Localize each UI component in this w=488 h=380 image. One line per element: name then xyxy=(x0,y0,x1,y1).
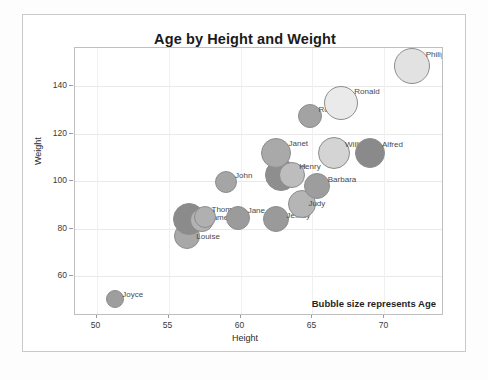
screenshot-root: Age by Height and Weight Weight Height 6… xyxy=(0,0,488,380)
data-point-label: Henry xyxy=(299,162,320,171)
x-tick-label: 65 xyxy=(296,321,326,330)
gridline-horizontal xyxy=(75,134,442,135)
plot-area: JoyceLouiseAliceJamesThomasJaneJohnJeffr… xyxy=(74,47,443,315)
data-point-bubble[interactable] xyxy=(226,206,250,230)
data-point-label: Ronald xyxy=(354,87,379,96)
data-point-label: Judy xyxy=(308,199,325,208)
data-point-bubble[interactable] xyxy=(394,48,430,84)
y-tick-label: 100 xyxy=(41,176,67,185)
gridline-horizontal xyxy=(75,229,442,230)
y-tick-mark xyxy=(69,228,73,229)
x-tick-label: 70 xyxy=(368,321,398,330)
y-tick-label: 140 xyxy=(41,81,67,90)
gridline-horizontal xyxy=(75,276,442,277)
gridline-vertical xyxy=(169,48,170,314)
data-point-label: Louise xyxy=(196,232,220,241)
y-tick-label: 120 xyxy=(41,129,67,138)
chart-card: Age by Height and Weight Weight Height 6… xyxy=(22,14,466,352)
bubble-size-annotation: Bubble size represents Age xyxy=(312,298,436,309)
data-point-bubble[interactable] xyxy=(324,86,358,120)
x-tick-label: 50 xyxy=(81,321,111,330)
data-point-bubble[interactable] xyxy=(355,138,385,168)
gridline-vertical xyxy=(97,48,98,314)
y-axis-label: Weight xyxy=(33,137,43,165)
data-point-bubble[interactable] xyxy=(304,173,330,199)
data-point-label: Jane xyxy=(248,206,265,215)
gridline-vertical xyxy=(241,48,242,314)
data-point-bubble[interactable] xyxy=(261,138,291,168)
x-tick-label: 60 xyxy=(225,321,255,330)
y-tick-label: 60 xyxy=(41,271,67,280)
data-point-label: Alfred xyxy=(382,140,403,149)
chart-title: Age by Height and Weight xyxy=(23,31,467,47)
gridline-horizontal xyxy=(75,181,442,182)
data-point-label: Janet xyxy=(288,139,308,148)
y-tick-mark xyxy=(69,180,73,181)
data-point-label: John xyxy=(235,171,252,180)
data-point-label: Philip xyxy=(426,50,443,59)
y-tick-mark xyxy=(69,133,73,134)
x-axis-label: Height xyxy=(23,333,467,343)
data-point-label: Joyce xyxy=(122,290,143,299)
y-tick-label: 80 xyxy=(41,224,67,233)
data-point-bubble[interactable] xyxy=(215,171,237,193)
x-tick-label: 55 xyxy=(153,321,183,330)
data-point-label: Barbara xyxy=(328,175,356,184)
y-tick-mark xyxy=(69,85,73,86)
gridline-horizontal xyxy=(75,86,442,87)
y-tick-mark xyxy=(69,275,73,276)
gridline-vertical xyxy=(384,48,385,314)
